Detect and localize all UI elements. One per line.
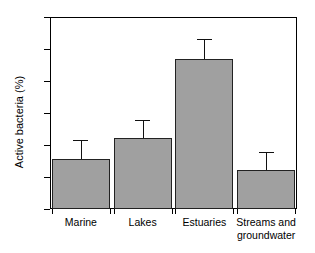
x-tick-mark	[233, 209, 234, 214]
y-axis-title: Active bacteria (%)	[10, 26, 28, 218]
x-tick-mark	[175, 209, 176, 214]
error-bar-stem	[204, 39, 205, 58]
x-category-label: Streams and groundwater	[235, 216, 297, 241]
error-bar-cap	[73, 140, 88, 141]
bar	[175, 59, 233, 209]
x-tick-mark	[172, 209, 173, 214]
bar-group	[52, 17, 110, 209]
bar	[114, 138, 172, 209]
bar	[52, 159, 110, 209]
bar-group	[175, 17, 233, 209]
x-tick-mark	[237, 209, 238, 214]
error-bar-stem	[266, 152, 267, 170]
x-category-label: Marine	[50, 216, 112, 229]
error-bar-cap	[135, 120, 150, 121]
x-tick-mark	[52, 209, 53, 214]
bar	[237, 170, 295, 209]
error-bar-stem	[81, 140, 82, 159]
error-bar-cap	[259, 152, 274, 153]
bar-chart-figure: Active bacteria (%) 0102030405060 Marine…	[0, 0, 315, 253]
bar-group	[114, 17, 172, 209]
bars-container	[50, 17, 297, 209]
x-tick-mark	[114, 209, 115, 214]
x-category-label: Lakes	[112, 216, 174, 229]
x-tick-mark	[295, 209, 296, 214]
bar-group	[237, 17, 295, 209]
error-bar-stem	[143, 120, 144, 138]
x-category-label: Estuaries	[174, 216, 236, 229]
error-bar-cap	[197, 39, 212, 40]
x-tick-mark	[110, 209, 111, 214]
